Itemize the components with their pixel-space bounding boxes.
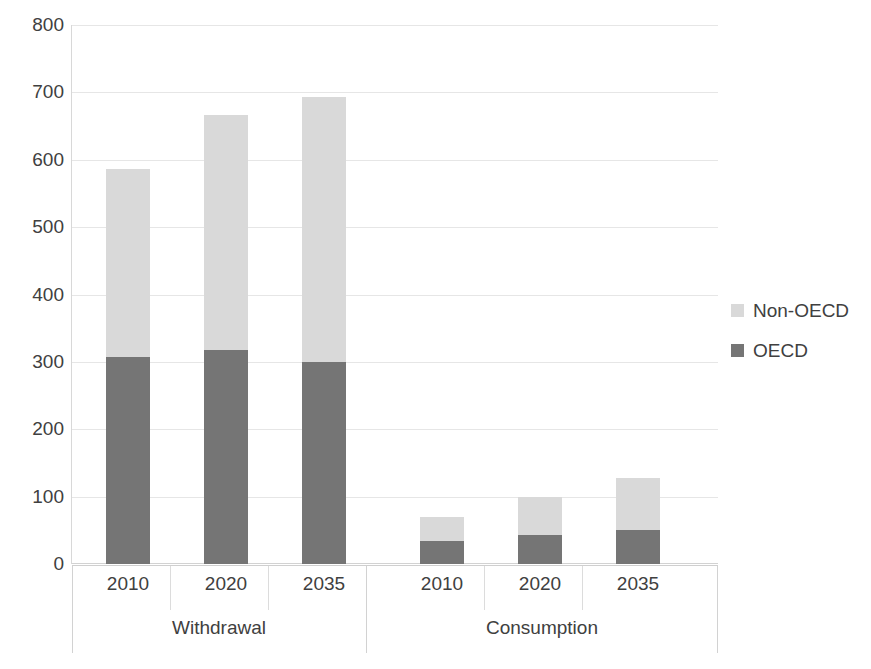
y-tick-0: 0: [4, 554, 64, 573]
stacked-bar-chart: 800 700 600 500 400 300 200 100 0: [0, 0, 871, 669]
bar-segment-non-oecd: [302, 97, 346, 362]
bar-segment-oecd: [420, 541, 464, 564]
x-group-label-consumption: Consumption: [367, 617, 717, 639]
gridline-500: [72, 227, 718, 228]
legend-label-oecd: OECD: [753, 341, 808, 360]
y-tick-700: 700: [4, 82, 64, 101]
bar-segment-oecd: [616, 530, 660, 564]
gridline-200: [72, 429, 718, 430]
x-group-end-separator: [717, 566, 718, 653]
x-tick-consumption-2020: 2020: [485, 573, 595, 595]
y-axis-labels: 800 700 600 500 400 300 200 100 0: [0, 25, 64, 564]
x-tick-withdrawal-2020: 2020: [171, 573, 281, 595]
legend-label-non-oecd: Non-OECD: [753, 301, 849, 320]
bar-segment-oecd: [204, 350, 248, 564]
bar-consumption-2010[interactable]: [420, 517, 464, 564]
bar-consumption-2035[interactable]: [616, 478, 660, 564]
y-tick-500: 500: [4, 217, 64, 236]
x-axis-line: [72, 565, 718, 566]
chart-legend: Non-OECD OECD: [731, 296, 867, 376]
gridline-300: [72, 362, 718, 363]
legend-swatch-non-oecd-icon: [731, 304, 744, 317]
bar-segment-oecd: [106, 357, 150, 564]
y-tick-200: 200: [4, 419, 64, 438]
gridline-700: [72, 92, 718, 93]
y-tick-600: 600: [4, 150, 64, 169]
bar-segment-oecd: [518, 535, 562, 564]
bar-segment-non-oecd: [518, 497, 562, 535]
legend-item-non-oecd[interactable]: Non-OECD: [731, 296, 867, 324]
x-tick-consumption-2010: 2010: [387, 573, 497, 595]
y-tick-800: 800: [4, 15, 64, 34]
bar-segment-non-oecd: [204, 115, 248, 350]
bar-withdrawal-2035[interactable]: [302, 97, 346, 564]
bar-withdrawal-2010[interactable]: [106, 169, 150, 564]
y-tick-100: 100: [4, 487, 64, 506]
x-tick-withdrawal-2010: 2010: [73, 573, 183, 595]
gridline-600: [72, 160, 718, 161]
plot-area: [72, 25, 718, 564]
y-tick-300: 300: [4, 352, 64, 371]
gridline-400: [72, 295, 718, 296]
x-axis: 2010 2020 2035 2010 2020 2035 Withdrawal…: [72, 565, 718, 653]
bar-segment-non-oecd: [106, 169, 150, 357]
bar-segment-oecd: [302, 362, 346, 564]
bar-withdrawal-2020[interactable]: [204, 115, 248, 564]
legend-swatch-oecd-icon: [731, 344, 744, 357]
x-tick-consumption-2035: 2035: [583, 573, 693, 595]
x-group-label-withdrawal: Withdrawal: [72, 617, 366, 639]
bar-consumption-2020[interactable]: [518, 497, 562, 564]
bar-segment-non-oecd: [616, 478, 660, 531]
x-tick-withdrawal-2035: 2035: [269, 573, 379, 595]
bar-segment-non-oecd: [420, 517, 464, 541]
y-tick-400: 400: [4, 285, 64, 304]
gridline-800: [72, 25, 718, 26]
legend-item-oecd[interactable]: OECD: [731, 336, 867, 364]
